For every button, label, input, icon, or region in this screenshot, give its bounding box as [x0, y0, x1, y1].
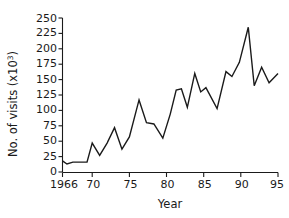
y-tick-label-75: 75	[43, 119, 57, 132]
x-tick-label-1975: 75	[123, 178, 137, 191]
x-axis-title: Year	[157, 197, 183, 211]
y-axis-title-base: No. of visits (x10	[6, 60, 20, 157]
data-series-line	[63, 27, 279, 164]
y-tick-label-250: 250	[36, 12, 57, 25]
x-tick-label-1966: 1966	[50, 178, 78, 191]
x-tick-label-1985: 85	[198, 178, 212, 191]
y-tick-label-50: 50	[43, 134, 57, 147]
y-tick-label-225: 225	[36, 26, 57, 39]
y-tick-label-0: 0	[50, 165, 57, 178]
y-tick-label-25: 25	[43, 150, 57, 163]
y-tick-label-100: 100	[36, 103, 57, 116]
chart-figure: No. of visits (x103) 0 25 50 75 100 125 …	[0, 0, 289, 218]
y-axis-title: No. of visits (x103)	[6, 51, 20, 157]
y-tick-label-150: 150	[36, 73, 57, 86]
x-tick-label-1980: 80	[161, 178, 175, 191]
y-tick-label-200: 200	[36, 42, 57, 55]
x-tick-label-1995: 95	[270, 178, 284, 191]
y-axis-title-tail: )	[6, 51, 20, 56]
x-tick-label-1970: 70	[86, 178, 100, 191]
x-tick-label-1990: 90	[235, 178, 249, 191]
y-tick-label-125: 125	[36, 88, 57, 101]
y-tick-label-175: 175	[36, 57, 57, 70]
line-chart: No. of visits (x103) 0 25 50 75 100 125 …	[0, 0, 289, 218]
